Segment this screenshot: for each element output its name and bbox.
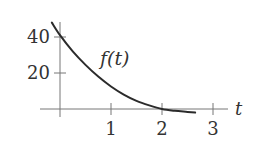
x-tick-label: 2: [156, 118, 167, 139]
y-tick-label: 40: [27, 26, 50, 47]
function-label: f(t): [98, 47, 130, 69]
chart-canvas: 1232040 f(t) t: [0, 0, 260, 147]
axes: [40, 22, 228, 117]
x-axis-label: t: [235, 98, 243, 119]
x-tick-label: 1: [105, 118, 116, 139]
x-tick-label: 3: [207, 118, 218, 139]
chart: 1232040 f(t) t: [0, 0, 260, 147]
y-tick-label: 20: [27, 62, 50, 83]
ticks: 1232040: [27, 26, 219, 139]
